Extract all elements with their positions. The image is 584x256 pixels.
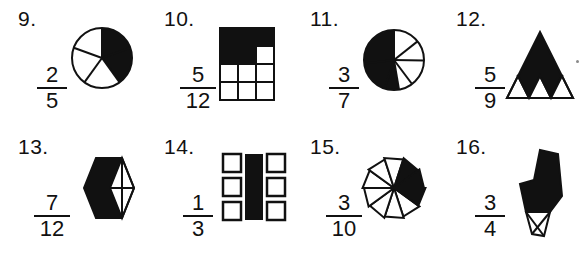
problem-number: 14. <box>164 136 195 157</box>
problem-number: 13. <box>18 136 49 157</box>
problem-14: 14. 1 3 <box>146 128 292 256</box>
problem-row-top: 9. 2 5 <box>0 0 584 128</box>
problem-11: 11. 3 7 <box>292 0 438 128</box>
figure-polygon-4-parts <box>502 144 582 230</box>
problem-number: 10. <box>164 8 195 29</box>
worksheet-page: 9. 2 5 <box>0 0 584 256</box>
problem-12: 12. 5 9 <box>438 0 584 128</box>
figure-hexagon-12-parts <box>64 144 144 230</box>
problem-13: 13. 7 12 <box>0 128 146 256</box>
problem-number: 15. <box>310 136 341 157</box>
figure-squares-cross-9 <box>210 144 290 230</box>
figure-circle-5-sectors <box>64 16 144 102</box>
problem-number: 9. <box>18 8 37 29</box>
figure-grid-3x4 <box>210 16 290 102</box>
problem-10: 10. 5 12 <box>146 0 292 128</box>
figure-pinwheel-10-blades <box>356 144 436 230</box>
figure-triangle-9-parts <box>502 16 582 102</box>
problem-number: 11. <box>310 8 339 29</box>
problem-15: 15. 3 10 <box>292 128 438 256</box>
paper-speck <box>576 60 579 63</box>
problem-9: 9. 2 5 <box>0 0 146 128</box>
problem-row-bottom: 13. 7 12 14. <box>0 128 584 256</box>
problem-number: 16. <box>456 136 487 157</box>
figure-circle-7-sectors <box>356 16 436 102</box>
problem-number: 12. <box>456 8 487 29</box>
problem-16: 16. 3 4 <box>438 128 584 256</box>
